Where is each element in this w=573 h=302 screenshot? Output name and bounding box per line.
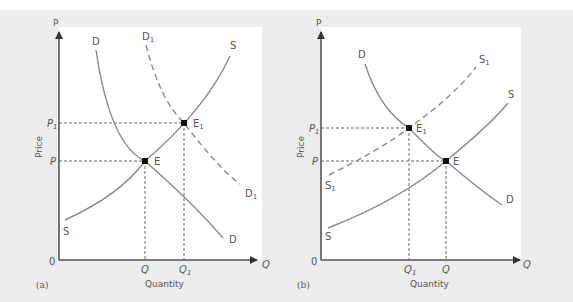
label-s-top: S bbox=[230, 40, 236, 51]
label-s-top: S bbox=[508, 89, 514, 100]
label-s-bottom: S bbox=[325, 231, 331, 242]
tick-q: Q bbox=[141, 264, 149, 275]
tick-p: P bbox=[312, 156, 319, 167]
panel-label: (b) bbox=[297, 280, 310, 290]
panel-b: P Q 0 P P1 Q Q1 Quantity Price (b) D D S… bbox=[296, 18, 531, 290]
y-axis-symbol: P bbox=[53, 18, 59, 28]
x-axis-symbol: Q bbox=[523, 259, 531, 270]
panel-b-plot-area bbox=[321, 27, 521, 260]
y-axis-symbol: P bbox=[316, 18, 322, 28]
panel-a: P Q 0 P P1 Q Q1 Quantity Price (a) D D D… bbox=[34, 18, 270, 290]
x-axis-symbol: Q bbox=[262, 259, 270, 270]
chart-svg: P Q 0 P P1 Q Q1 Quantity Price (a) D D D… bbox=[0, 0, 573, 302]
equilibrium-point-e bbox=[443, 158, 449, 164]
label-e: E bbox=[154, 156, 160, 167]
label-d-bottom: D bbox=[506, 194, 514, 205]
y-axis-title: Price bbox=[34, 136, 44, 158]
y-axis-title: Price bbox=[296, 136, 306, 158]
origin-label: 0 bbox=[49, 256, 55, 267]
label-d-top: D bbox=[92, 36, 100, 47]
x-axis-title: Quantity bbox=[145, 279, 185, 289]
x-axis-title: Quantity bbox=[410, 279, 450, 289]
panel-a-plot-area bbox=[59, 27, 262, 260]
tick-q: Q bbox=[442, 264, 450, 275]
label-e: E bbox=[453, 156, 459, 167]
origin-label: 0 bbox=[311, 256, 317, 267]
equilibrium-point-e bbox=[142, 158, 148, 164]
label-d-bottom: D bbox=[229, 234, 237, 245]
figure: P Q 0 P P1 Q Q1 Quantity Price (a) D D D… bbox=[0, 0, 573, 302]
panel-label: (a) bbox=[36, 280, 48, 290]
equilibrium-point-e1 bbox=[181, 120, 187, 126]
tick-p: P bbox=[50, 156, 57, 167]
label-s-bottom: S bbox=[63, 226, 69, 237]
label-d-top: D bbox=[358, 49, 366, 60]
equilibrium-point-e1 bbox=[406, 125, 412, 131]
